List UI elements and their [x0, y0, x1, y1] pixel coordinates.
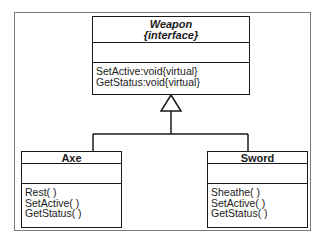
class-header: Weapon {interface} [93, 17, 249, 43]
operation: Sheathe( ) [211, 187, 307, 198]
operations-compartment: Rest( ) SetActive( ) GetStatus( ) [22, 184, 121, 219]
inheritance-arrow-icon [161, 95, 181, 111]
operation: SetActive:void{virtual} [96, 66, 249, 77]
attributes-compartment [208, 164, 307, 184]
class-weapon-interface[interactable]: Weapon {interface} SetActive:void{virtua… [92, 16, 250, 95]
operations-compartment: Sheathe( ) SetActive( ) GetStatus( ) [208, 184, 307, 219]
class-axe[interactable]: Axe Rest( ) SetActive( ) GetStatus( ) [21, 151, 122, 228]
class-header: Sword [208, 152, 307, 164]
attributes-compartment [93, 43, 249, 63]
operations-compartment: SetActive:void{virtual} GetStatus:void{v… [93, 63, 249, 87]
class-name: Sword [208, 153, 307, 164]
class-name: Axe [22, 153, 121, 164]
operation: Rest( ) [25, 187, 121, 198]
class-stereotype: {interface} [93, 30, 249, 41]
class-sword[interactable]: Sword Sheathe( ) SetActive( ) GetStatus(… [207, 151, 308, 228]
operation: GetStatus:void{virtual} [96, 77, 249, 88]
operation: GetStatus( ) [25, 208, 121, 219]
attributes-compartment [22, 164, 121, 184]
operation: GetStatus( ) [211, 208, 307, 219]
class-header: Axe [22, 152, 121, 164]
